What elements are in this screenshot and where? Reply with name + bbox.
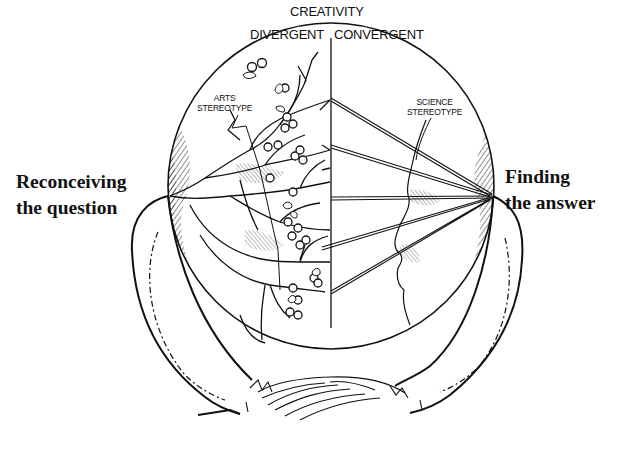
face-profile: [395, 120, 426, 325]
brain-illustration: [0, 0, 632, 457]
caption-finding: Finding the answer: [505, 164, 595, 216]
creativity-diagram: CREATIVITY DIVERGENT CONVERGENT ARTS STE…: [0, 0, 632, 457]
leaves: [243, 72, 320, 303]
convergent-lines: [322, 98, 492, 294]
arts-line-2: STEREOTYPE: [197, 103, 252, 113]
title-creativity: CREATIVITY: [290, 5, 364, 18]
science-line-2: STEREOTYPE: [407, 107, 462, 117]
brain-circle: [150, 23, 520, 360]
science-stereotype-label: SCIENCE STEREOTYPE: [407, 97, 462, 117]
caption-left-line-2: the question: [16, 195, 126, 221]
caption-left-line-1: Reconceiving: [16, 169, 126, 195]
arts-pointer: [232, 115, 280, 290]
science-line-1: SCIENCE: [407, 97, 462, 107]
caption-reconceiving: Reconceiving the question: [16, 169, 126, 221]
label-convergent: CONVERGENT: [334, 28, 424, 41]
head-outline: [132, 196, 523, 415]
arts-line-1: ARTS: [197, 93, 252, 103]
caption-right-line-2: the answer: [505, 190, 595, 216]
label-divergent: DIVERGENT: [250, 28, 324, 41]
berries: [248, 59, 323, 320]
caption-right-line-1: Finding: [505, 164, 595, 190]
arts-stereotype-label: ARTS STEREOTYPE: [197, 93, 252, 113]
hair: [246, 377, 422, 420]
